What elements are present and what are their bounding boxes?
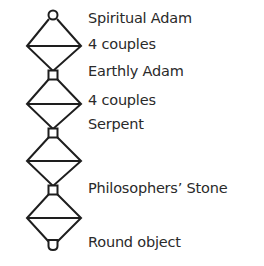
node-round-object-cup (49, 240, 58, 250)
label-serpent: Serpent (88, 117, 144, 132)
node-serpent-square (49, 129, 58, 138)
label-philosophers-stone: Philosophers’ Stone (88, 181, 227, 196)
node-philosophers-stone-square (49, 186, 58, 195)
node-spiritual-adam-circle (49, 11, 58, 20)
label-earthly-adam: Earthly Adam (88, 64, 184, 79)
diamond-1 (27, 19, 81, 71)
label-round-object: Round object (88, 235, 181, 250)
diamond-2 (27, 79, 81, 129)
label-spiritual-adam: Spiritual Adam (88, 11, 192, 26)
diamond-3 (27, 137, 81, 186)
label-4-couples-lower: 4 couples (88, 93, 156, 108)
diamond-4 (27, 194, 81, 242)
label-4-couples-upper: 4 couples (88, 37, 156, 52)
node-earthly-adam-square (49, 71, 58, 80)
